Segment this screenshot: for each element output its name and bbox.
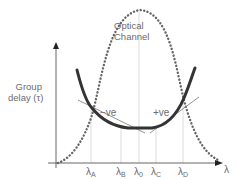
- tick-lambda-d: λD: [178, 166, 188, 179]
- group-delay-curve: [77, 68, 195, 128]
- y-axis-arrow-icon: [53, 42, 59, 49]
- y-axis-label-line1: Group: [14, 81, 43, 92]
- optical-channel-label: Optical Channel: [114, 20, 164, 42]
- tick-subscript: C: [156, 171, 161, 178]
- y-axis-label: Group delay (τ): [8, 81, 43, 103]
- tick-lambda-b: λB: [116, 166, 126, 179]
- tick-subscript: 0: [139, 171, 143, 178]
- tick-lambda-0: λ0: [134, 166, 143, 179]
- tick-subscript: A: [91, 171, 96, 178]
- group-delay-diagram: Optical Channel Group delay (τ) −ve +ve …: [0, 0, 238, 179]
- tick-lambda-a: λA: [86, 166, 96, 179]
- tick-subscript: D: [183, 171, 188, 178]
- tick-lambda-c: λC: [151, 166, 161, 179]
- positive-slope-label: +ve: [153, 107, 169, 118]
- tick-subscript: B: [121, 171, 126, 178]
- channel-label-line1: Optical: [114, 20, 164, 31]
- x-axis-arrow-icon: [215, 160, 223, 166]
- x-axis-label: λ: [224, 164, 229, 176]
- negative-slope-label: −ve: [100, 107, 116, 118]
- channel-label-line2: Channel: [114, 31, 164, 42]
- y-axis-label-line2: delay (τ): [8, 92, 43, 103]
